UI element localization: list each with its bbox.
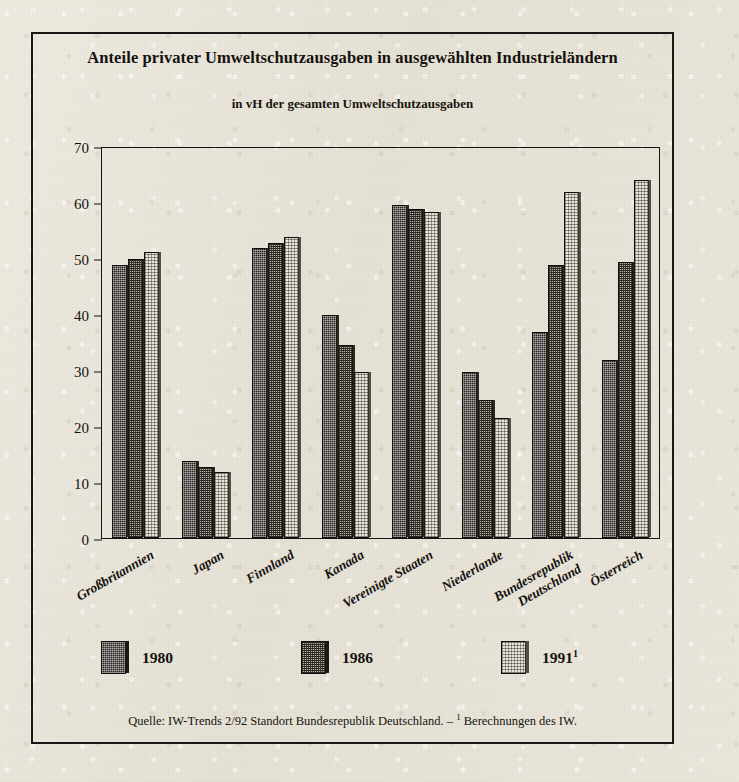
legend-swatch-1986	[301, 641, 326, 674]
bar-1991	[494, 418, 509, 538]
bar-group	[112, 148, 159, 538]
bar-1986	[268, 243, 283, 538]
bar-1986	[618, 262, 633, 538]
bar-1980	[252, 248, 267, 538]
bar-1980	[602, 360, 617, 538]
chart-legend: 1980198619911	[101, 641, 561, 679]
chart-subtitle: in vH der gesamten Umweltschutzausgaben	[33, 96, 672, 112]
legend-swatch-1980	[101, 641, 126, 674]
bar-1980	[532, 332, 547, 538]
bar-1986	[128, 259, 143, 538]
bar-1980	[392, 205, 407, 538]
bar-1991	[284, 237, 299, 538]
bar-1991	[424, 212, 439, 538]
source-suffix: Berechnungen des IW.	[461, 714, 577, 728]
bar-group	[462, 148, 509, 538]
bar-group	[322, 148, 369, 538]
bar-1991	[634, 180, 649, 538]
legend-item-1991: 19911	[501, 641, 578, 674]
legend-label-1986: 1986	[342, 649, 373, 667]
bar-1991	[564, 192, 579, 538]
bar-group	[252, 148, 299, 538]
legend-swatch-1991	[501, 641, 526, 674]
legend-item-1980: 1980	[101, 641, 173, 674]
bar-1986	[198, 467, 213, 538]
bar-group	[182, 148, 229, 538]
legend-footnote-marker: 1	[573, 648, 578, 659]
bar-1991	[144, 252, 159, 538]
bar-group	[602, 148, 649, 538]
y-axis-tick-mark	[94, 428, 102, 429]
bar-1986	[478, 400, 493, 538]
y-axis-tick-mark	[94, 484, 102, 485]
legend-item-1986: 1986	[301, 641, 373, 674]
legend-label-1980: 1980	[142, 649, 173, 667]
source-note: Quelle: IW-Trends 2/92 Standort Bundesre…	[33, 712, 672, 729]
source-prefix: Quelle: IW-Trends 2/92 Standort Bundesre…	[128, 714, 456, 728]
y-axis-tick-mark	[94, 540, 102, 541]
bar-1986	[408, 209, 423, 538]
bar-1980	[462, 372, 477, 538]
bar-1980	[112, 265, 127, 538]
chart-title: Anteile privater Umweltschutzausgaben in…	[33, 48, 672, 68]
bar-series-container	[102, 148, 659, 538]
y-axis-tick-mark	[94, 148, 102, 149]
bar-1991	[354, 372, 369, 538]
y-axis-tick-mark	[94, 260, 102, 261]
bar-1986	[548, 265, 563, 538]
y-axis-tick-mark	[94, 316, 102, 317]
plot-area: 010203040506070	[101, 147, 660, 539]
legend-label-1991: 19911	[542, 648, 578, 667]
bar-group	[392, 148, 439, 538]
bar-1980	[182, 461, 197, 538]
y-axis-tick-mark	[94, 372, 102, 373]
y-axis-tick-mark	[94, 204, 102, 205]
bar-group	[532, 148, 579, 538]
bar-1986	[338, 345, 353, 538]
bar-1980	[322, 315, 337, 538]
bar-1991	[214, 472, 229, 538]
